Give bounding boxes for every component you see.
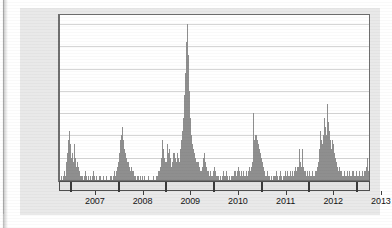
bar xyxy=(269,176,270,180)
bar xyxy=(281,176,282,180)
bar-series xyxy=(60,15,369,180)
page-scan-edge xyxy=(0,0,8,228)
x-axis-year-separator xyxy=(165,182,167,192)
bar xyxy=(106,176,107,180)
bar xyxy=(229,176,230,180)
bar xyxy=(103,176,104,180)
bar xyxy=(153,176,154,180)
bar xyxy=(274,176,275,180)
x-axis-year-separator xyxy=(213,182,215,192)
x-tick-label: 2010 xyxy=(218,196,258,206)
x-tick-label: 2012 xyxy=(313,196,353,206)
x-tick-mark xyxy=(286,191,287,195)
x-tick-mark xyxy=(381,191,382,195)
bar xyxy=(231,176,232,180)
bar xyxy=(111,176,112,180)
bar xyxy=(148,176,149,180)
x-axis-year-separator xyxy=(118,182,120,192)
x-tick-mark xyxy=(333,191,334,195)
bar xyxy=(368,171,369,180)
bar xyxy=(142,176,143,180)
bar xyxy=(220,176,221,180)
x-tick-label: 2011 xyxy=(266,196,306,206)
bar xyxy=(135,176,136,180)
bar xyxy=(61,176,62,180)
x-axis-year-separator xyxy=(356,182,358,192)
plot-area xyxy=(59,14,370,181)
bar xyxy=(218,176,219,180)
bar xyxy=(86,176,87,180)
bar xyxy=(138,176,139,180)
x-tick-label: 2013 xyxy=(361,196,392,206)
bar xyxy=(271,176,272,180)
x-axis-year-separator xyxy=(70,182,72,192)
x-tick-label: 2007 xyxy=(75,196,115,206)
x-tick-mark xyxy=(238,191,239,195)
bar xyxy=(140,176,141,180)
x-axis-year-separator xyxy=(308,182,310,192)
bar xyxy=(82,176,83,180)
bar xyxy=(277,176,278,180)
bar xyxy=(90,176,91,180)
x-axis-year-separator xyxy=(261,182,263,192)
x-tick-mark xyxy=(95,191,96,195)
bar xyxy=(110,176,111,180)
x-tick-mark xyxy=(190,191,191,195)
plot-inner xyxy=(60,15,369,180)
x-tick-label: 2009 xyxy=(170,196,210,206)
bar xyxy=(94,176,95,180)
bar xyxy=(88,176,89,180)
x-tick-mark xyxy=(143,191,144,195)
x-tick-label: 2008 xyxy=(123,196,163,206)
bar xyxy=(99,176,100,180)
page-scan-edge-line xyxy=(3,0,4,214)
bar xyxy=(144,176,145,180)
bar xyxy=(227,176,228,180)
x-axis-band xyxy=(59,181,370,191)
bar xyxy=(100,176,101,180)
bar xyxy=(96,176,97,180)
